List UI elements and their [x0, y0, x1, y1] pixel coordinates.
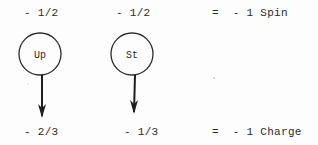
diagram-shapes: Up St: [0, 0, 318, 145]
st-charge-value: - 1/3: [124, 126, 159, 138]
up-label: Up: [34, 50, 46, 61]
st-label: St: [126, 50, 138, 61]
up-particle: Up: [19, 33, 61, 118]
scan-speck: [213, 77, 214, 78]
quark-diagram: - 1/2 - 1/2 = - 1 Spin Up St - 2/3 - 1/3: [0, 0, 318, 145]
up-charge-value: - 2/3: [24, 126, 59, 138]
st-particle: St: [111, 33, 153, 114]
scan-speck: [27, 83, 28, 84]
total-charge: = - 1 Charge: [212, 126, 302, 138]
